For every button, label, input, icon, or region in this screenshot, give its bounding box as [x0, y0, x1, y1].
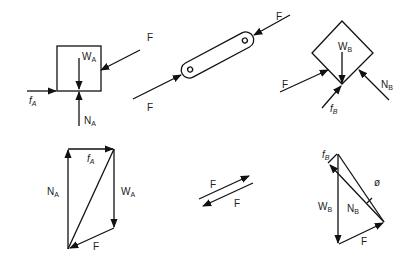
- polygon-a-weight-label: WA: [121, 186, 135, 198]
- force-diagram: WA NA fA F F F WB F fB NB: [0, 0, 407, 261]
- force-polygon-b: fB ø WB NB F: [318, 149, 384, 247]
- equal-opposite-forces: F F: [199, 176, 253, 209]
- polygon-b-friction-label: fB: [322, 149, 330, 161]
- pair-force-top-label: F: [210, 179, 216, 190]
- friction-b-label: fB: [330, 103, 338, 115]
- force-polygon-a: NA fA WA F: [47, 149, 135, 252]
- force-a-label: F: [147, 32, 153, 43]
- polygon-a-friction-label: fA: [87, 153, 95, 165]
- polygon-b-angle-label: ø: [374, 177, 380, 188]
- link-force-top-label: F: [276, 11, 282, 22]
- normal-b-label: NB: [381, 79, 393, 91]
- polygon-a-force-label: F: [93, 241, 99, 252]
- normal-a-label: NA: [84, 115, 96, 127]
- polygon-b-weight-label: WB: [318, 201, 332, 213]
- polygon-b-normal-label: NB: [347, 203, 359, 215]
- link-fbd: F F: [133, 11, 290, 113]
- link-force-bottom-arrow: [133, 75, 181, 99]
- pair-force-up-arrow: [199, 176, 249, 199]
- force-b-label: F: [282, 79, 288, 90]
- polygon-a-normal-label: NA: [47, 186, 59, 198]
- pair-force-bottom-label: F: [234, 198, 240, 209]
- friction-a-label: fA: [29, 95, 37, 107]
- polygon-b-resultant: [338, 154, 384, 222]
- force-a-arrow: [101, 50, 140, 70]
- block-b-fbd: WB F fB NB: [280, 21, 393, 115]
- link-force-bottom-label: F: [147, 102, 153, 113]
- link-force-top-arrow: [254, 15, 290, 35]
- polygon-b-force-label: F: [361, 236, 367, 247]
- block-a-fbd: WA NA fA F: [27, 32, 153, 127]
- link-member: [178, 29, 256, 81]
